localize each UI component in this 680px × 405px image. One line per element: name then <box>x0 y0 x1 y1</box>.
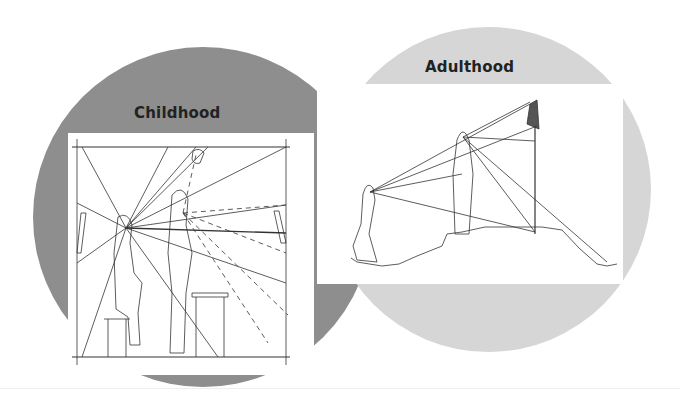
standing-figure <box>453 132 473 234</box>
childhood-illustration <box>68 133 314 375</box>
left-wall-picture <box>77 213 86 253</box>
ground-line <box>351 227 617 266</box>
right-wall-picture <box>274 211 286 243</box>
childhood-drawing <box>68 133 314 375</box>
table <box>192 293 228 357</box>
kneeling-figure <box>353 185 377 262</box>
seated-child-figure <box>114 215 142 345</box>
adulthood-title: Adulthood <box>425 58 514 76</box>
adulthood-drawing <box>317 84 623 284</box>
adulthood-illustration <box>317 84 623 284</box>
standing-child-figure <box>168 190 192 353</box>
childhood-title: Childhood <box>134 104 221 122</box>
stool <box>104 319 130 357</box>
bottom-divider <box>0 388 680 389</box>
